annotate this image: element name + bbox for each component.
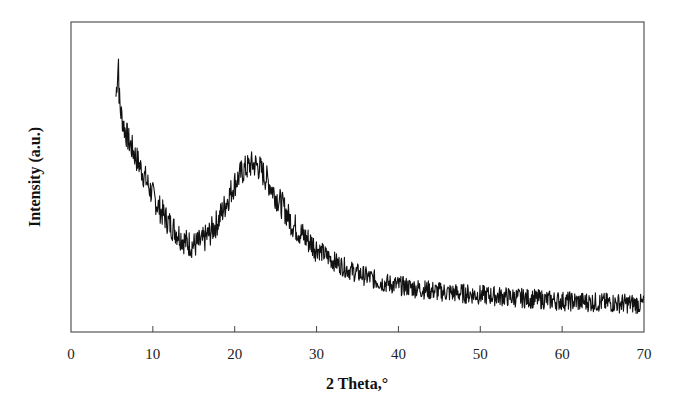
x-tick-label: 30 — [309, 346, 324, 362]
x-tick-label: 40 — [391, 346, 406, 362]
xrd-series-line — [116, 59, 644, 313]
x-tick-label: 0 — [67, 346, 75, 362]
x-tick-label: 10 — [145, 346, 160, 362]
x-tick-label: 70 — [637, 346, 652, 362]
xrd-chart: 010203040506070 2 Theta,° Intensity (a.u… — [0, 0, 680, 416]
plot-frame — [71, 22, 644, 332]
series-group — [116, 59, 644, 313]
x-tick-label: 50 — [473, 346, 488, 362]
x-tick-label: 20 — [227, 346, 242, 362]
x-tick-label: 60 — [555, 346, 570, 362]
x-axis-title: 2 Theta,° — [326, 375, 388, 392]
x-axis-tick-labels: 010203040506070 — [67, 346, 651, 362]
x-axis-ticks — [153, 326, 562, 332]
y-axis-title: Intensity (a.u.) — [26, 127, 44, 227]
